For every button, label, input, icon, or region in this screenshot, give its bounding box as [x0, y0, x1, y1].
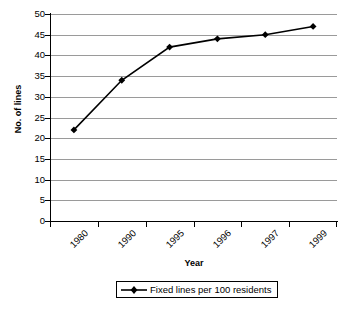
x-axis-tick-mark — [194, 221, 195, 227]
y-axis-ticks — [0, 14, 50, 221]
series-line — [74, 26, 313, 130]
x-axis-tick-mark — [289, 221, 290, 227]
x-axis-tick-mark — [50, 221, 51, 227]
x-axis-tick-mark — [241, 221, 242, 227]
data-series-fixed-lines — [50, 14, 337, 221]
data-point-marker — [262, 31, 269, 38]
x-axis-tick-mark — [336, 221, 337, 227]
data-point-marker — [214, 35, 221, 42]
x-axis-tick-mark — [146, 221, 147, 227]
x-axis-tick-mark — [98, 221, 99, 227]
chart-legend: Fixed lines per 100 residents — [116, 281, 278, 298]
data-point-marker — [310, 23, 317, 30]
series-markers — [71, 23, 317, 133]
x-axis-title: Year — [50, 258, 338, 268]
line-chart: No. of lines 05101520253035404550 198019… — [0, 0, 352, 314]
legend-label-fixed-lines: Fixed lines per 100 residents — [150, 284, 271, 295]
x-axis-tick-labels: 198019901995199619971999 — [50, 228, 338, 256]
legend-diamond-marker-icon — [121, 283, 147, 297]
